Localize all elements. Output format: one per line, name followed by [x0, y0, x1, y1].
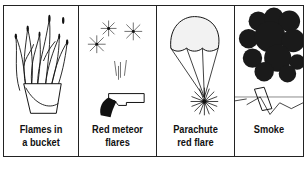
- caption-line-1: Red meteor: [84, 123, 152, 136]
- caption-line-1: Smoke: [239, 123, 299, 136]
- panel-parachute-red-flare: Parachute red flare: [157, 6, 235, 156]
- panel-red-meteor-flares: Red meteor flares: [79, 6, 157, 156]
- caption-parachute-red-flare: Parachute red flare: [162, 123, 230, 149]
- caption-flames-in-bucket: Flames in a bucket: [8, 123, 73, 149]
- panel-smoke: Smoke: [235, 6, 303, 156]
- caption-line-1: Flames in: [8, 123, 73, 136]
- caption-line-2: flares: [84, 136, 152, 149]
- panel-flames-in-bucket: Flames in a bucket: [4, 6, 79, 156]
- caption-line-2: red flare: [162, 136, 230, 149]
- caption-smoke: Smoke: [239, 123, 299, 136]
- caption-red-meteor-flares: Red meteor flares: [84, 123, 152, 149]
- caption-line-1: Parachute: [162, 123, 230, 136]
- flames-bucket-icon: [4, 6, 78, 118]
- caption-line-2: a bucket: [8, 136, 73, 149]
- parachute-flare-icon: [157, 6, 234, 118]
- flare-gun-icon: [79, 6, 156, 118]
- smoke-icon: [235, 6, 303, 118]
- distress-signals-diagram: Flames in a bucket Red meteor flares: [3, 5, 304, 157]
